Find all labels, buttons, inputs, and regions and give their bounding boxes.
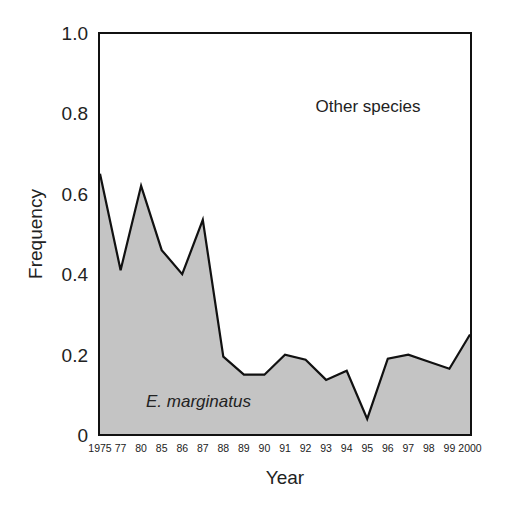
x-tick-label: 93 — [320, 442, 332, 454]
x-tick-label: 77 — [115, 442, 127, 454]
y-tick-label: 0 — [77, 425, 88, 446]
x-tick-label: 95 — [361, 442, 373, 454]
frequency-area-chart: 00.20.40.60.81.0 19757780858687888990919… — [0, 0, 516, 508]
x-tick-label: 86 — [176, 442, 188, 454]
x-tick-label: 2000 — [458, 442, 482, 454]
x-tick-label: 91 — [279, 442, 291, 454]
x-tick-label: 85 — [156, 442, 168, 454]
x-tick-label: 87 — [197, 442, 209, 454]
x-tick-label: 88 — [217, 442, 229, 454]
y-tick-label: 1.0 — [62, 23, 88, 44]
x-axis: 1975778085868788899091929394959697989920… — [88, 442, 482, 454]
y-tick-label: 0.2 — [62, 345, 88, 366]
y-tick-label: 0.6 — [62, 184, 88, 205]
annotation-other-species: Other species — [316, 97, 421, 116]
x-tick-label: 90 — [259, 442, 271, 454]
x-tick-label: 99 — [444, 442, 456, 454]
y-tick-label: 0.4 — [62, 264, 89, 285]
y-axis-title: Frequency — [25, 189, 46, 279]
annotation-e-marginatus: E. marginatus — [146, 392, 251, 411]
y-axis: 00.20.40.60.81.0 — [62, 23, 89, 446]
x-tick-label: 97 — [402, 442, 414, 454]
x-tick-label: 80 — [135, 442, 147, 454]
x-tick-label: 92 — [300, 442, 312, 454]
x-axis-title: Year — [266, 467, 305, 488]
x-tick-label: 1975 — [88, 442, 112, 454]
x-tick-label: 94 — [341, 442, 353, 454]
x-tick-label: 89 — [238, 442, 250, 454]
x-tick-label: 98 — [423, 442, 435, 454]
y-tick-label: 0.8 — [62, 103, 88, 124]
x-tick-label: 96 — [382, 442, 394, 454]
